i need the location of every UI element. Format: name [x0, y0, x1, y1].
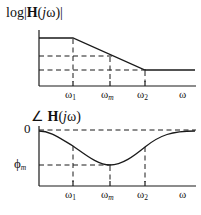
omega-subscript: m	[108, 193, 113, 202]
phi-subscript: m	[21, 163, 26, 172]
phi-glyph: ϕ	[14, 156, 21, 171]
phase-x-axis-label: ω	[179, 189, 186, 200]
omega-subscript: 1	[72, 193, 76, 202]
phase-xtick-label-w2: ω2	[137, 189, 148, 201]
magnitude-x-axis-label: ω	[179, 89, 186, 100]
omega-subscript: 1	[72, 93, 76, 102]
bode-plot-canvas	[0, 0, 201, 215]
magnitude-xtick-label-w1: ω1	[65, 89, 76, 101]
omega-subscript: 2	[144, 193, 148, 202]
phase-ytick-label-zero: 0	[24, 122, 31, 135]
magnitude-xtick-label-wm: ωm	[101, 89, 114, 101]
omega-subscript: m	[108, 93, 113, 102]
magnitude-response-curve	[39, 38, 195, 70]
phase-xtick-label-w1: ω1	[65, 189, 76, 201]
magnitude-plot-group	[39, 30, 196, 86]
bode-plot-figure: log|H(jω)| ∠ H(jω)	[0, 0, 201, 215]
phase-xtick-label-wm: ωm	[101, 189, 114, 201]
phase-plot-group	[39, 126, 196, 186]
magnitude-xtick-label-w2: ω2	[137, 89, 148, 101]
phase-response-curve	[39, 131, 195, 165]
phase-ytick-label-phim: ϕm	[14, 157, 26, 171]
omega-subscript: 2	[144, 93, 148, 102]
